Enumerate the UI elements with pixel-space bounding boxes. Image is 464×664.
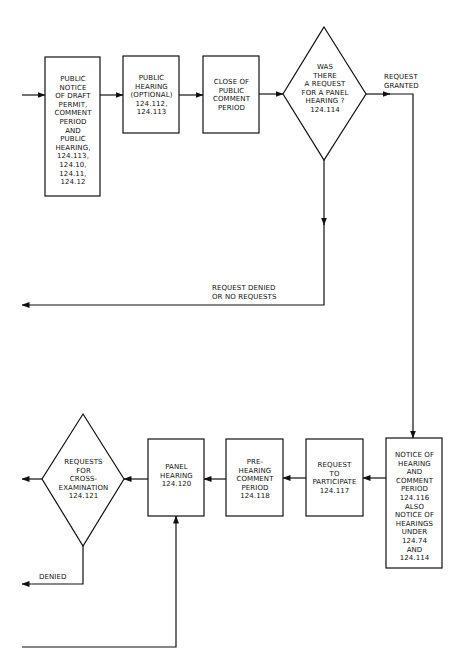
panel-request-label: WAS THERE A REQUEST FOR A PANEL HEARING … [283,63,367,115]
public-notice-label: PUBLIC NOTICE OF DRAFT PERMIT, COMMENT P… [45,75,101,187]
panel-hearing-label: PANEL HEARING 124.120 [148,463,205,489]
close-comment-label: CLOSE OF PUBLIC COMMENT PERIOD [203,78,260,112]
notice-of-hearing-label: NOTICE OF HEARING AND COMMENT PERIOD 124… [386,451,443,563]
pre-hearing-label: PRE- HEARING COMMENT PERIOD 124.118 [226,458,284,501]
request-participate-label: REQUEST TO PARTICIPATE 124.117 [304,461,365,495]
public-hearing-label: PUBLIC HEARING (OPTIONAL) 124.112, 124.1… [123,74,180,117]
granted-connector [389,94,413,438]
request-granted-label: REQUEST GRANTED [384,73,444,90]
cross-exam-label: REQUESTS FOR CROSS- EXAMINATION 124.121 [42,458,125,501]
request-denied-label: REQUEST DENIED OR NO REQUESTS [212,284,312,301]
denied-label: DENIED [39,573,79,582]
